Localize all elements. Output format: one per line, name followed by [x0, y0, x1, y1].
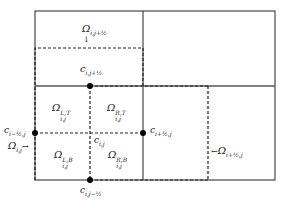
down-arrow-icon: ↓ [83, 36, 90, 44]
right-arrow-icon: → [22, 142, 29, 151]
node-c-bottom [87, 177, 93, 183]
label-c-right: ci+½,j [150, 126, 172, 137]
node-c-right [140, 130, 146, 136]
label-omega-RT: ΩR,Ti,j [107, 103, 126, 122]
grid-diagram [0, 0, 283, 208]
label-c-top: ci,j+½ [80, 64, 102, 76]
node-c-top [87, 83, 93, 89]
left-arrow-icon: ← [211, 147, 218, 156]
label-omega-RB: ΩR,Bi,j [108, 150, 127, 169]
label-c-center: ci,j [94, 136, 105, 147]
label-omega-LT: ΩL,Ti,j [52, 103, 70, 122]
nodes [32, 83, 146, 183]
node-c-left [32, 130, 38, 136]
label-omega-right: ←Ωi+½,j [211, 146, 243, 158]
label-omega-LB: ΩL,Bi,j [54, 150, 73, 169]
label-c-left: ci−½,j [4, 126, 26, 137]
label-omega-cell: Ωi,j→ [8, 141, 29, 153]
label-c-bottom: ci,j−½ [80, 186, 102, 197]
